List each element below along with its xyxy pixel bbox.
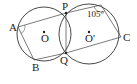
label-p: P bbox=[62, 0, 68, 12]
label-b: B bbox=[32, 61, 39, 73]
label-c: C bbox=[123, 31, 130, 43]
segments bbox=[18, 5, 121, 60]
segment-ab bbox=[18, 27, 34, 60]
label-o: O bbox=[41, 32, 49, 44]
geometry-diagram: A B P Q C O O' 105° bbox=[0, 0, 137, 84]
label-q: Q bbox=[60, 54, 68, 66]
point-p bbox=[65, 12, 67, 14]
angle-label-105: 105° bbox=[87, 9, 105, 19]
label-a: A bbox=[9, 21, 17, 33]
label-o-prime: O' bbox=[85, 32, 95, 44]
